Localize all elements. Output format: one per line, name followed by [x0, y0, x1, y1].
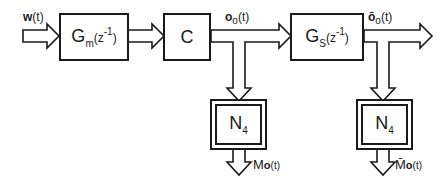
n4a-output-arrow	[227, 149, 251, 175]
block-gs-label: GS(z-1)	[305, 26, 349, 49]
block-n4-left-inner: N4	[215, 104, 262, 145]
block-n4-left-label: N4	[229, 113, 248, 136]
signal-m-label: Mo(t)	[253, 157, 280, 172]
signal-o-label: oo(t)	[225, 10, 249, 26]
block-gm-label: Gm(z-1)	[71, 26, 116, 49]
block-gs: GS(z-1)	[290, 13, 364, 61]
n4b-output-arrow	[371, 149, 395, 175]
block-c: C	[163, 13, 211, 61]
signal-mbar-label: M̄o(t)	[395, 157, 422, 172]
block-n4-right-inner: N4	[361, 104, 408, 145]
signal-w-label: w(t)	[23, 10, 44, 24]
block-n4-right-label: N4	[375, 113, 394, 136]
gs-to-output-arrow	[364, 24, 432, 101]
block-gm: Gm(z-1)	[59, 13, 129, 61]
block-c-label: C	[181, 27, 194, 48]
signal-obar-label: ōo(t)	[368, 10, 392, 26]
block-n4-right: N4	[356, 99, 413, 150]
c-to-gs-arrow	[211, 24, 291, 101]
input-arrow	[23, 24, 59, 48]
block-diagram: Gm(z-1) C GS(z-1) N4 N4 w(t) oo(t) ōo(t)…	[0, 0, 446, 178]
block-n4-left: N4	[210, 99, 267, 150]
gm-to-c-arrow	[128, 24, 164, 48]
